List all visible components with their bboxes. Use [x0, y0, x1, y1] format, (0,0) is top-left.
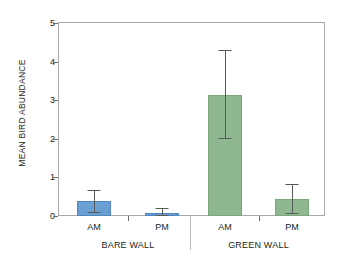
y-tick-mark: [53, 23, 58, 24]
x-tick-mark: [259, 216, 260, 221]
y-tick-mark: [53, 100, 58, 101]
y-axis-title-text: MEAN BIRD ABUNDANCE: [17, 59, 27, 166]
x-group-label: BARE WALL: [58, 240, 198, 250]
y-tick-mark: [53, 139, 58, 140]
y-tick-label: 3: [31, 96, 55, 105]
x-tick-mark: [128, 216, 129, 221]
y-tick-mark: [53, 216, 58, 217]
error-bar-cap: [156, 215, 169, 216]
error-bar: [162, 208, 163, 216]
error-bar-cap: [88, 212, 101, 213]
x-category-label: PM: [262, 222, 322, 232]
x-category-label: PM: [132, 222, 192, 232]
y-tick-mark: [53, 177, 58, 178]
error-bar: [94, 190, 95, 212]
error-bar: [225, 50, 226, 138]
y-tick-mark: [53, 62, 58, 63]
error-bar-cap: [88, 190, 101, 191]
error-bar: [292, 184, 293, 213]
y-tick-label: 1: [31, 173, 55, 182]
y-tick-label: 4: [31, 57, 55, 66]
error-bar-cap: [286, 213, 299, 214]
y-axis-title: MEAN BIRD ABUNDANCE: [10, 0, 34, 225]
y-tick-label: 2: [31, 134, 55, 143]
plot-area: [59, 23, 324, 216]
error-bar-cap: [156, 208, 169, 209]
bird-abundance-bar-chart: MEAN BIRD ABUNDANCE 012345 AMPMBARE WALL…: [0, 0, 341, 259]
y-tick-label: 0: [31, 212, 55, 221]
error-bar-cap: [286, 184, 299, 185]
x-category-label: AM: [64, 222, 124, 232]
x-category-label: AM: [195, 222, 255, 232]
error-bar-cap: [219, 138, 232, 139]
y-tick-label: 5: [31, 19, 55, 28]
error-bar-cap: [219, 50, 232, 51]
x-group-label: GREEN WALL: [189, 240, 329, 250]
